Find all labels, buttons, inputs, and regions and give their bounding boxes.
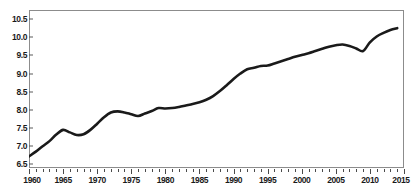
chart-container: 6.57.07.58.08.59.09.510.010.5 1960196519… [0,0,413,195]
x-axis-tick-minor [254,169,255,172]
x-axis-tick-major [404,169,405,174]
y-axis-tick-label: 8.5 [16,87,27,97]
x-axis-tick-minor [84,169,85,172]
x-axis-tick-major [370,169,371,174]
x-axis-tick-minor [206,169,207,172]
x-axis-tick-minor [343,169,344,172]
x-axis-tick-label: 1980 [157,175,174,185]
x-axis-tick-major [97,169,98,174]
x-axis-tick-minor [36,169,37,172]
x-axis-tick-minor [377,169,378,172]
x-axis-tick-minor [220,169,221,172]
x-axis-tick-minor [356,169,357,172]
x-axis-tick-label: 1995 [259,175,276,185]
x-axis-tick-label: 2000 [293,175,310,185]
x-axis-tick-major [63,169,64,174]
x-axis-tick-minor [281,169,282,172]
x-axis-tick-major [165,169,166,174]
x-axis-tick-major [302,169,303,174]
x-axis-tick-minor [111,169,112,172]
x-axis-tick-minor [227,169,228,172]
x-axis-tick-major [268,169,269,174]
x-axis-tick-minor [274,169,275,172]
x-axis-tick-minor [315,169,316,172]
x-axis-tick-minor [384,169,385,172]
x-axis-tick-minor [172,169,173,172]
x-axis-tick-minor [77,169,78,172]
x-axis-tick-major [234,169,235,174]
x-axis-tick-minor [70,169,71,172]
x-axis-tick-label: 1985 [191,175,208,185]
x-axis-tick-minor [90,169,91,172]
x-axis-tick-minor [159,169,160,172]
x-axis-tick-minor [213,169,214,172]
data-series-layer [29,10,404,168]
x-axis-tick-label: 1970 [89,175,106,185]
y-axis-tick-label: 9.5 [16,50,27,60]
y-axis-tick-label: 8.0 [16,105,27,115]
x-axis-tick-minor [43,169,44,172]
x-axis-tick-minor [56,169,57,172]
caption-remnant [0,0,413,6]
x-axis-tick-major [131,169,132,174]
y-axis-tick-label: 9.0 [16,69,27,79]
x-axis-tick-label: 2010 [361,175,378,185]
x-axis-tick-label: 1960 [23,175,40,185]
y-axis-tick-label: 6.5 [16,159,27,169]
x-axis-tick-label: 2005 [327,175,344,185]
x-axis-tick-minor [390,169,391,172]
x-axis-tick-major [199,169,200,174]
x-axis-tick-minor [49,169,50,172]
x-axis-tick-label: 2015 [392,175,409,185]
x-axis-tick-minor [397,169,398,172]
y-axis-tick-label: 7.0 [16,141,27,151]
x-axis-tick-minor [247,169,248,172]
x-axis-tick-major [29,169,30,174]
x-axis-tick-label: 1965 [54,175,71,185]
x-axis-tick-minor [179,169,180,172]
x-axis-tick-minor [309,169,310,172]
x-axis-tick-minor [138,169,139,172]
y-axis-tick-label: 10.5 [12,14,27,24]
x-axis-tick-minor [349,169,350,172]
x-axis-tick-label: 1975 [123,175,140,185]
x-axis-tick-minor [240,169,241,172]
x-axis-tick-minor [118,169,119,172]
x-axis-tick-minor [152,169,153,172]
x-axis-tick-minor [363,169,364,172]
x-axis-tick-minor [295,169,296,172]
x-axis-tick-label: 1990 [225,175,242,185]
y-axis-tick-label: 7.5 [16,123,27,133]
y-axis-labels: 6.57.07.58.08.59.09.510.010.5 [0,10,27,168]
y-axis-tick-label: 10.0 [12,32,27,42]
x-axis-tick-major [336,169,337,174]
x-axis-tick-minor [288,169,289,172]
x-axis-tick-minor [124,169,125,172]
series-line-1 [29,28,397,156]
x-axis-tick-minor [322,169,323,172]
x-axis-tick-minor [104,169,105,172]
x-axis-tick-minor [145,169,146,172]
x-axis-tick-minor [186,169,187,172]
x-axis-tick-minor [261,169,262,172]
x-axis-tick-minor [193,169,194,172]
x-axis-tick-minor [329,169,330,172]
